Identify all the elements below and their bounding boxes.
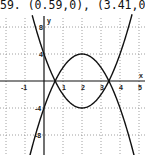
x-tick: 2: [81, 84, 85, 91]
x-tick: 5: [138, 84, 142, 91]
y-tick: -4: [35, 105, 41, 112]
y-axis-label: y: [47, 17, 51, 25]
y-tick: 4: [39, 51, 43, 58]
x-tick: 1: [62, 84, 66, 91]
graph: y x -1 1 2 3 4 5 8 4 -4 -8: [0, 0, 145, 155]
x-tick: 4: [119, 84, 123, 91]
x-axis-label: x: [139, 72, 143, 79]
x-tick: -1: [21, 84, 27, 91]
y-tick: 8: [39, 24, 43, 31]
